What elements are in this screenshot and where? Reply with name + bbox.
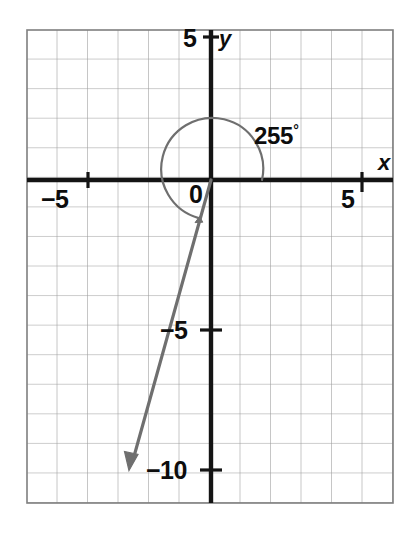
y-axis-tick-label-neg10: −10	[146, 458, 187, 483]
coordinate-grid-figure: 5 y x −5 5 0 −5 −10 255°	[0, 0, 415, 540]
x-axis-tick-label-neg5: −5	[41, 187, 69, 212]
x-axis-name-label: x	[378, 152, 390, 174]
angle-value-text: 255	[254, 122, 293, 149]
y-axis-name-label: y	[219, 28, 231, 50]
y-axis-tick-label-5: 5	[183, 26, 196, 51]
y-axis-tick-label-neg5: −5	[160, 318, 188, 343]
x-axis-tick-label-pos5: 5	[341, 187, 354, 212]
origin-label: 0	[189, 182, 202, 207]
angle-measure-label: 255°	[254, 123, 298, 148]
plot-canvas	[0, 0, 415, 540]
degree-symbol: °	[293, 122, 298, 138]
